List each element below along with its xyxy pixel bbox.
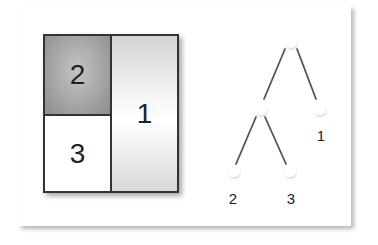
edge-root-leaf-1: [297, 49, 316, 99]
tree-diagram: [0, 0, 378, 245]
node-internal: [254, 103, 268, 117]
leaf-3-label: 3: [287, 190, 295, 207]
edge-internal-leaf-3: [265, 117, 286, 164]
node-leaf-2: [227, 165, 241, 179]
node-leaf-1: [313, 103, 327, 117]
leaf-2-label: 2: [229, 190, 237, 207]
tree-edges: [236, 49, 316, 164]
edge-root-internal: [264, 49, 285, 99]
node-root: [284, 36, 298, 50]
tree-nodes: [227, 36, 327, 179]
edge-internal-leaf-2: [236, 117, 256, 164]
node-leaf-3: [283, 165, 297, 179]
leaf-1-label: 1: [317, 127, 325, 144]
